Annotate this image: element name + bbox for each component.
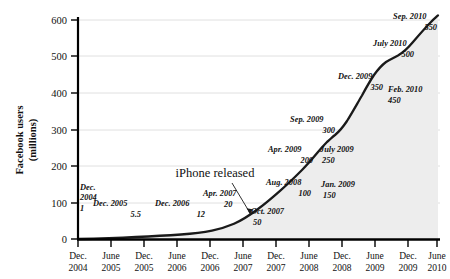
point-9-date: Sep. 2009	[290, 115, 324, 124]
xtick-label-1-month: June	[102, 251, 119, 261]
xtick-label-8-month: Dec.	[333, 251, 351, 261]
point-12-date: July 2010	[372, 39, 408, 48]
xtick-label-6-month: Dec.	[267, 251, 285, 261]
ytick-label-100: 100	[51, 198, 67, 209]
point-13-date: Sep. 2010	[393, 12, 427, 21]
point-2-date: Dec. 2006	[154, 199, 190, 208]
xtick-label-2-month: Dec.	[135, 251, 153, 261]
point-10-date: Dec. 2009	[337, 72, 373, 81]
xtick-label-4-year: 2006	[201, 263, 220, 273]
point-3-value: 20	[223, 200, 233, 209]
y-axis-title-line2: (millions)	[27, 118, 39, 161]
point-4-value: 50	[253, 218, 262, 227]
xtick-label-3-year: 2006	[168, 263, 187, 273]
point-3-date: Apr. 2007	[202, 189, 237, 198]
point-13-value: 550	[424, 23, 437, 32]
ytick-label-400: 400	[51, 88, 67, 99]
xtick-label-3-month: June	[168, 251, 185, 261]
point-4-date: Oct. 2007	[251, 207, 285, 216]
point-7-date: Apr. 2009	[267, 145, 302, 154]
xtick-label-4-month: Dec.	[201, 251, 219, 261]
xtick-label-0-month: Dec.	[69, 251, 87, 261]
point-1-date: Dec. 2005	[92, 199, 127, 208]
xtick-label-10-month: Dec.	[399, 251, 417, 261]
ytick-label-0: 0	[62, 234, 67, 245]
xtick-label-10-year: 2009	[399, 263, 418, 273]
ytick-label-300: 300	[51, 125, 67, 136]
point-8-date: July 2009	[319, 145, 355, 154]
xtick-label-11-year: 2010	[428, 263, 447, 273]
point-12-value: 500	[401, 50, 414, 59]
xtick-label-5-month: June	[234, 251, 251, 261]
xtick-label-9-month: June	[366, 251, 383, 261]
xtick-label-9-year: 2009	[366, 263, 385, 273]
xtick-label-7-year: 2008	[300, 263, 319, 273]
point-5-date: Aug. 2008	[265, 178, 302, 187]
point-11-value: 450	[387, 96, 401, 105]
point-7-value: 200	[299, 156, 313, 165]
point-9-value: 300	[321, 126, 335, 135]
chart-svg: 600 500 400 300 200 100 0 Facebook users…	[0, 0, 450, 279]
point-1-value: 5.5	[131, 210, 141, 219]
xtick-label-1-year: 2005	[102, 263, 121, 273]
point-5-value: 100	[298, 189, 311, 198]
xtick-label-0-year: 2004	[69, 263, 88, 273]
point-8-value: 250	[321, 156, 335, 165]
point-11-date: Feb. 2010	[387, 85, 423, 94]
point-6-date: Jan. 2009	[320, 180, 356, 189]
xtick-label-11-month: June	[428, 251, 445, 261]
iphone-released-label: iPhone released	[176, 166, 256, 180]
xtick-label-5-year: 2007	[234, 263, 253, 273]
xtick-label-6-year: 2007	[267, 263, 286, 273]
ytick-label-600: 600	[51, 15, 67, 26]
point-10-value: 350	[369, 83, 383, 92]
facebook-users-chart: 600 500 400 300 200 100 0 Facebook users…	[0, 0, 450, 279]
point-0-date-line1: Dec.	[79, 183, 96, 192]
xtick-label-2-year: 2005	[135, 263, 154, 273]
ytick-label-500: 500	[51, 51, 67, 62]
point-6-value: 150	[323, 191, 336, 200]
xtick-label-7-month: June	[300, 251, 317, 261]
point-0-value: 1	[80, 204, 84, 213]
ytick-label-200: 200	[51, 161, 67, 172]
point-2-value: 12	[197, 210, 205, 219]
y-axis-title-line1: Facebook users	[14, 105, 25, 174]
xtick-label-8-year: 2008	[333, 263, 352, 273]
